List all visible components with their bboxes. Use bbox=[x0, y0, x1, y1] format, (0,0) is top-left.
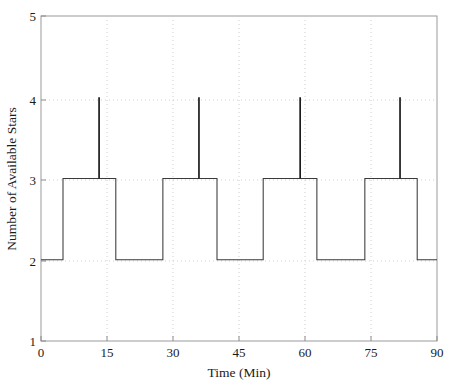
x-tick-label-75: 75 bbox=[365, 345, 378, 360]
x-tick-label-60: 60 bbox=[299, 345, 312, 360]
chart-figure: 0 15 30 45 60 75 90 1 2 3 4 5 Time (Min)… bbox=[0, 0, 460, 388]
y-tick-label-1: 1 bbox=[30, 334, 37, 349]
y-tick-label-2: 2 bbox=[30, 254, 37, 269]
x-tick-label-15: 15 bbox=[101, 345, 114, 360]
step-chart-svg: 0 15 30 45 60 75 90 1 2 3 4 5 Time (Min)… bbox=[0, 0, 460, 388]
x-axis-title: Time (Min) bbox=[208, 365, 271, 380]
y-axis-title: Number of Available Stars bbox=[4, 107, 19, 250]
y-tick-label-4: 4 bbox=[30, 93, 37, 108]
figure-background bbox=[0, 0, 460, 388]
x-tick-label-0: 0 bbox=[38, 345, 45, 360]
y-tick-label-3: 3 bbox=[30, 173, 37, 188]
x-tick-label-90: 90 bbox=[431, 345, 444, 360]
y-tick-label-5: 5 bbox=[30, 9, 37, 24]
x-tick-label-30: 30 bbox=[167, 345, 180, 360]
x-tick-label-45: 45 bbox=[233, 345, 246, 360]
